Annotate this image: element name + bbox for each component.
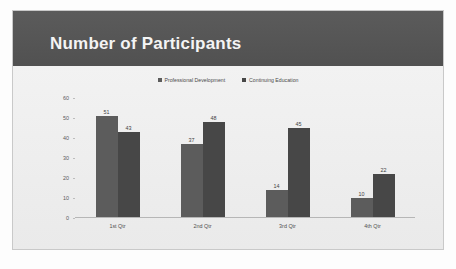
bar-slot: 22 [373,98,395,218]
bar-group: 37482nd Qtr [160,98,245,218]
legend-item-series-1: Professional Development [158,77,226,83]
bar-value-label: 51 [104,109,110,115]
y-axis-tick-label: 40 [63,135,69,141]
x-axis-category-label: 4th Qtr [330,223,415,229]
bar-slot: 51 [96,98,118,218]
bar-group: 14453rd Qtr [245,98,330,218]
slide-header-banner: Number of Participants [13,11,443,66]
bar-pair: 1022 [330,98,415,218]
bar-slot: 45 [288,98,310,218]
y-axis-tick-label: 60 [63,95,69,101]
bar-groups: 51431st Qtr37482nd Qtr14453rd Qtr10224th… [75,98,415,218]
bar-value-label: 10 [359,191,365,197]
bar-pair: 5143 [75,98,160,218]
bar-value-label: 43 [126,125,132,131]
y-axis-tick-label: 10 [63,195,69,201]
bar-slot: 10 [351,98,373,218]
chart-plot-area: 6050403020100 51431st Qtr37482nd Qtr1445… [75,98,415,218]
bar-slot: 48 [203,98,225,218]
bar-slot: 43 [118,98,140,218]
x-axis-category-label: 3rd Qtr [245,223,330,229]
bar-series-2[interactable]: 48 [203,122,225,218]
bar-value-label: 22 [381,167,387,173]
slide: Number of Participants Professional Deve… [0,0,456,269]
bar-pair: 1445 [245,98,330,218]
y-axis-tick-mark [73,218,75,219]
bar-slot: 14 [266,98,288,218]
legend-swatch-icon-series-2 [242,78,246,82]
bar-series-1[interactable]: 51 [96,116,118,218]
bar-pair: 3748 [160,98,245,218]
legend-label-series-2: Continuing Education [249,77,298,83]
bar-value-label: 48 [211,115,217,121]
y-axis-tick-label: 20 [63,175,69,181]
bar-series-2[interactable]: 22 [373,174,395,218]
bar-series-1[interactable]: 10 [351,198,373,218]
bar-group: 51431st Qtr [75,98,160,218]
page-title: Number of Participants [50,34,241,54]
y-axis-tick-label: 0 [66,215,69,221]
legend-label-series-1: Professional Development [165,77,226,83]
bar-series-1[interactable]: 37 [181,144,203,218]
x-axis-category-label: 2nd Qtr [160,223,245,229]
chart-legend: Professional Development Continuing Educ… [13,77,443,83]
bar-value-label: 14 [274,183,280,189]
bar-value-label: 45 [296,121,302,127]
legend-item-series-2: Continuing Education [242,77,298,83]
bar-series-2[interactable]: 45 [288,128,310,218]
x-axis-category-label: 1st Qtr [75,223,160,229]
bar-series-2[interactable]: 43 [118,132,140,218]
bar-value-label: 37 [189,137,195,143]
x-axis-line [75,217,415,218]
y-axis-tick-label: 30 [63,155,69,161]
bar-series-1[interactable]: 14 [266,190,288,218]
y-axis-tick-label: 50 [63,115,69,121]
bar-slot: 37 [181,98,203,218]
legend-swatch-icon-series-1 [158,78,162,82]
chart-container: Professional Development Continuing Educ… [13,66,443,249]
bar-group: 10224th Qtr [330,98,415,218]
